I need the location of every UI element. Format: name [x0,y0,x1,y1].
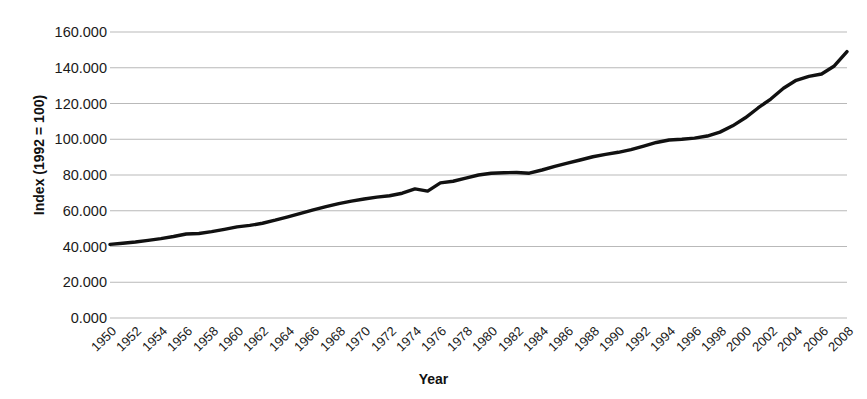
line-chart: Index (1992 = 100) 0.00020.00040.00060.0… [0,0,867,399]
x-axis-tick-labels: 1950195219541956195819601962196419661968… [0,0,867,399]
x-axis-title: Year [0,371,867,387]
